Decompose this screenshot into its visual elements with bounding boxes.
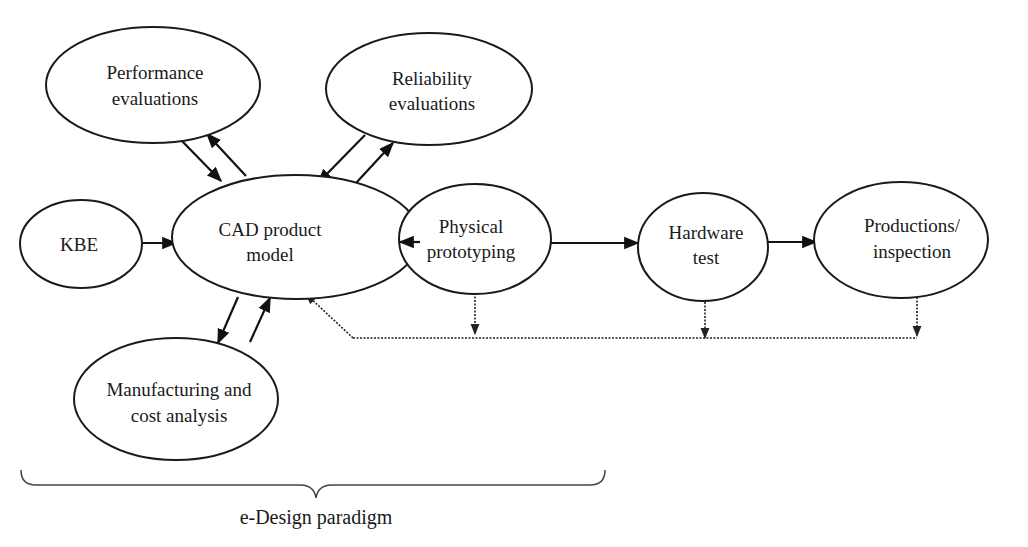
node-label-line1: Hardware: [669, 222, 744, 243]
edge-cad-to-performance: [207, 134, 246, 176]
node-label-line1: Performance: [106, 62, 203, 83]
e-design-diagram: Performance evaluations Reliability eval…: [0, 0, 1028, 547]
node-label-line2: model: [246, 244, 294, 265]
edge-cad-to-manufacturing: [218, 297, 238, 343]
node-label-line1: Manufacturing and: [106, 379, 252, 400]
node-reliability-evaluations: Reliability evaluations: [326, 33, 532, 145]
edge-manufacturing-to-cad: [250, 298, 270, 342]
node-label-line2: prototyping: [427, 241, 516, 262]
node-label-line1: Reliability: [392, 68, 473, 89]
node-productions-inspection: Productions/ inspection: [814, 182, 988, 298]
node-kbe: KBE: [20, 200, 142, 288]
node-physical-prototyping: Physical prototyping: [399, 184, 551, 294]
node-performance-evaluations: Performance evaluations: [46, 27, 260, 143]
node-label-line1: Productions/: [864, 215, 961, 236]
edge-performance-to-cad: [182, 141, 221, 181]
node-label-line2: inspection: [873, 241, 952, 262]
node-label-line2: evaluations: [389, 93, 476, 114]
feedback-to-cad: [306, 294, 353, 338]
node-label-line1: Physical: [439, 216, 503, 237]
node-hardware-test: Hardware test: [638, 193, 768, 301]
e-design-brace: e-Design paradigm: [21, 470, 605, 529]
node-label-line2: test: [693, 247, 720, 268]
node-cad-product-model: CAD product model: [172, 175, 420, 299]
node-label-line2: evaluations: [112, 88, 199, 109]
node-label-line2: cost analysis: [131, 405, 228, 426]
brace-label: e-Design paradigm: [240, 506, 393, 529]
feedback-loop: [306, 293, 917, 338]
node-label-line1: CAD product: [219, 219, 323, 240]
node-manufacturing-cost-analysis: Manufacturing and cost analysis: [74, 338, 278, 460]
node-label-line1: KBE: [60, 234, 98, 255]
